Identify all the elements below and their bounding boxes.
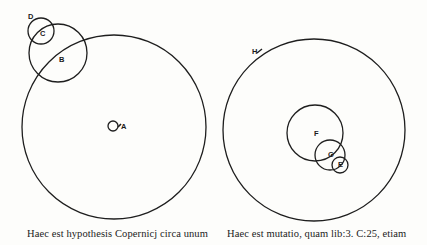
point-h-mark (257, 49, 262, 53)
label-b: B (59, 55, 65, 64)
label-d: D (28, 12, 34, 21)
caption-left: Haec est hypothesis Copernicj circa unum (27, 228, 208, 240)
circle-b (29, 24, 87, 82)
caption-right: Haec est mutatio, quam lib:3. C:25, etia… (227, 228, 406, 240)
label-c: C (40, 29, 46, 38)
label-a: A (121, 122, 127, 131)
label-f: F (314, 129, 319, 138)
circle-a (108, 121, 118, 131)
label-g: G (328, 150, 334, 159)
label-h: H (252, 47, 257, 56)
left-deferent-circle (22, 35, 206, 219)
diagram-canvas: D C B A H F G E (0, 0, 427, 245)
label-e: E (338, 160, 343, 169)
